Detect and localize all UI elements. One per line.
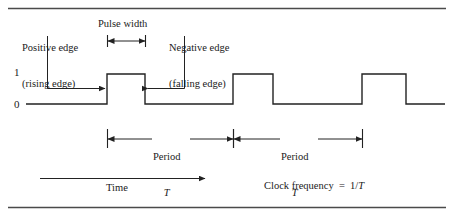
time-axis-label: Time bbox=[106, 182, 128, 194]
period-1-symbol: T bbox=[153, 187, 180, 199]
pulse-width-measure bbox=[108, 35, 146, 47]
clock-frequency-formula: Clock frequency = 1/T bbox=[264, 180, 364, 192]
logic-low-label: 0 bbox=[14, 98, 20, 110]
pulse-width-label: Pulse width bbox=[98, 18, 147, 30]
positive-edge-line2: (rising edge) bbox=[22, 78, 78, 90]
negative-edge-line1: Negative edge bbox=[169, 42, 229, 54]
logic-high-label: 1 bbox=[14, 66, 20, 78]
clock-frequency-text: Clock frequency = 1/ bbox=[264, 180, 358, 191]
clock-waveform-figure: Positive edge (rising edge) Pulse width … bbox=[0, 0, 454, 215]
positive-edge-label: Positive edge (rising edge) bbox=[22, 18, 78, 114]
positive-edge-line1: Positive edge bbox=[22, 42, 78, 54]
period-1-label: Period T bbox=[153, 127, 180, 215]
period-2-label: Period T bbox=[281, 127, 308, 215]
period-2-text: Period bbox=[281, 151, 308, 163]
period-1-text: Period bbox=[153, 151, 180, 163]
negative-edge-line2: (falling edge) bbox=[169, 78, 229, 90]
negative-edge-label: Negative edge (falling edge) bbox=[169, 18, 229, 114]
clock-frequency-symbol: T bbox=[358, 180, 364, 191]
